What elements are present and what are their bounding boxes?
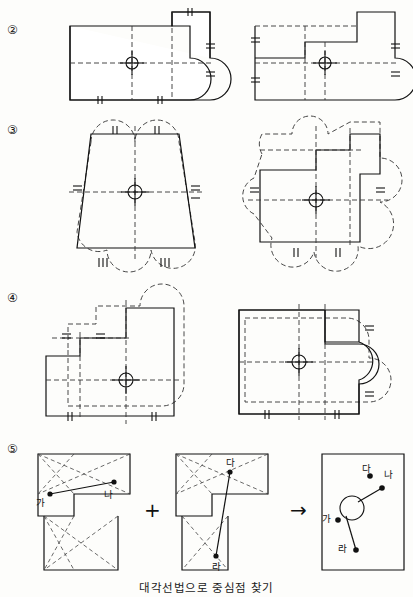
figure-5-middle: 다 라 (168, 446, 278, 576)
page-caption: 대각선법으로 중심점 찾기 (0, 579, 413, 595)
figure-4-left (40, 288, 215, 433)
label-da-right: 다 (362, 463, 371, 474)
figure-3-right (232, 118, 402, 276)
label-da-middle: 다 (226, 457, 235, 468)
arrow-symbol: → (290, 500, 307, 520)
figure-4-right (225, 292, 400, 432)
figure-3-left (55, 112, 225, 277)
row-label-5: ⑤ (7, 443, 18, 455)
label-ra-middle: 라 (212, 561, 221, 572)
plus-symbol: + (144, 500, 161, 520)
figure-2-left (62, 8, 217, 108)
label-ga-right: 가 (322, 513, 331, 524)
row-label-3: ③ (7, 124, 18, 136)
label-na-left: 나 (104, 489, 113, 500)
figure-5-left: 가 나 (30, 446, 140, 576)
label-na-right: 나 (384, 469, 393, 480)
row-label-4: ④ (7, 292, 18, 304)
figure-5-right: 다 나 가 라 (316, 446, 412, 576)
row-label-2: ② (7, 24, 18, 36)
label-ga-left: 가 (36, 497, 45, 508)
worksheet-page: ② (0, 0, 413, 597)
label-ra-right: 라 (338, 543, 347, 554)
figure-2-right (247, 8, 402, 108)
